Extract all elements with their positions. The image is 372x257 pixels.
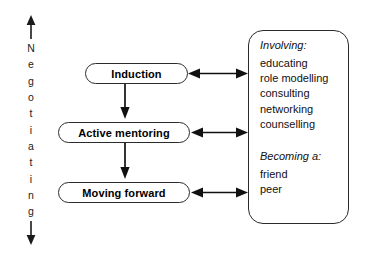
negotiating-label: N e g o t i a t i n g (27, 40, 35, 220)
axis-letter: a (28, 141, 34, 152)
axis-letter: g (28, 76, 34, 87)
axis-letter: t (30, 157, 33, 168)
axis-letter: g (28, 206, 34, 217)
link-arrow-active-panel (191, 128, 248, 138)
involving-heading: Involving: (260, 38, 348, 53)
involving-item: consulting (260, 86, 348, 101)
axis-letter: o (28, 92, 34, 103)
stage-box-active-mentoring[interactable]: Active mentoring (58, 122, 190, 143)
stage-label: Induction (111, 68, 161, 80)
becoming-list: friend peer (260, 167, 348, 197)
axis-letter: i (30, 174, 32, 185)
stage-label: Moving forward (82, 187, 165, 199)
stage-box-induction[interactable]: Induction (85, 63, 188, 84)
axis-letter: N (27, 43, 35, 54)
diagram-canvas: N e g o t i a t i n g (0, 0, 372, 257)
activities-panel: Involving: educating role modelling cons… (248, 30, 349, 224)
becoming-heading: Becoming a: (260, 149, 348, 164)
up-arrow-icon (18, 14, 44, 40)
involving-item: educating (260, 56, 348, 71)
down-arrow-icon (18, 220, 44, 246)
axis-letter: i (30, 125, 32, 136)
involving-item: networking (260, 102, 348, 117)
flow-arrow-active-to-moving (120, 143, 129, 179)
axis-letter: n (28, 190, 34, 201)
link-arrow-moving-panel (191, 188, 248, 198)
flow-arrow-induction-to-active (120, 84, 129, 119)
becoming-item: peer (260, 182, 348, 197)
stage-box-moving-forward[interactable]: Moving forward (58, 182, 190, 203)
involving-list: educating role modelling consulting netw… (260, 56, 348, 132)
involving-item: counselling (260, 117, 348, 132)
becoming-item: friend (260, 167, 348, 182)
axis-letter: t (30, 108, 33, 119)
axis-letter: e (28, 59, 34, 70)
negotiating-axis: N e g o t i a t i n g (18, 14, 44, 246)
stage-label: Active mentoring (78, 127, 169, 139)
link-arrow-induction-panel (188, 69, 248, 79)
involving-item: role modelling (260, 71, 348, 86)
becoming-group: Becoming a: friend peer (260, 149, 348, 197)
